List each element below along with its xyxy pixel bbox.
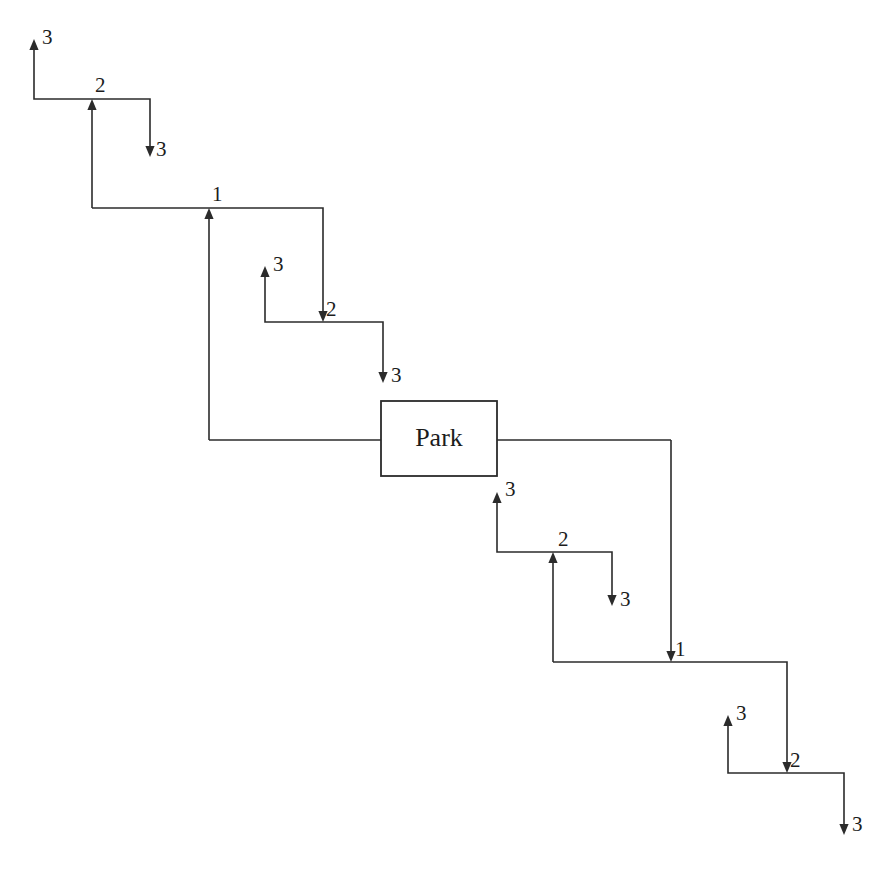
arrowhead-up-icon [723,715,732,726]
edge-3-to-2-bottom-right [728,723,787,773]
edge-1-to-2-bottom-right [671,662,787,765]
arrowhead-down-icon [378,372,387,383]
node-park-box[interactable]: Park [381,401,497,476]
edge-2-to-3-upper-middle [323,322,383,375]
flow-diagram: Park 21221233333333 [0,0,887,869]
label-terminal-3-bottom-down: 3 [852,812,863,836]
label-junction-2-upper-middle: 2 [326,297,337,321]
edge-1-to-2-upper-middle [209,208,323,314]
label-junction-2-bottom-right: 2 [790,748,801,772]
edge-3-to-2-lower-middle [497,500,555,552]
label-terminal-3-park-up: 3 [505,477,516,501]
label-junction-2-top-left: 2 [95,73,106,97]
label-terminal-3-bottom-up: 3 [736,701,747,725]
label-junction-2-lower-middle: 2 [558,527,569,551]
node-label: Park [415,423,463,452]
arrowhead-up-icon [260,266,269,277]
edge-3-to-2-upper-middle [265,274,323,322]
arrowhead-up-icon [492,492,501,503]
label-terminal-3-mid-up: 3 [273,252,284,276]
label-junction-1-upper: 1 [212,182,223,206]
label-terminal-3-top-left: 3 [42,25,53,49]
arrowhead-down-icon [145,146,154,157]
arrowhead-down-icon [607,595,616,606]
arrowhead-up-icon [29,39,38,50]
edge-3-to-2-top-left [34,47,92,99]
arrowhead-up-icon [87,99,96,110]
label-terminal-3-lower-down: 3 [620,587,631,611]
diagram-canvas: Park 21221233333333 [0,0,887,869]
edge-2-to-3-top-right [92,99,150,149]
label-terminal-3-mid-down: 3 [391,363,402,387]
label-terminal-3-upper-right: 3 [156,137,167,161]
arrowhead-up-icon [204,208,213,219]
edge-2-to-3-lower-middle [555,552,612,598]
arrowhead-up-icon [548,552,557,563]
label-junction-1-lower: 1 [675,637,686,661]
edge-2-to-3-bottom-right [787,773,844,827]
nodes-layer: Park [381,401,497,476]
arrowhead-down-icon [839,824,848,835]
